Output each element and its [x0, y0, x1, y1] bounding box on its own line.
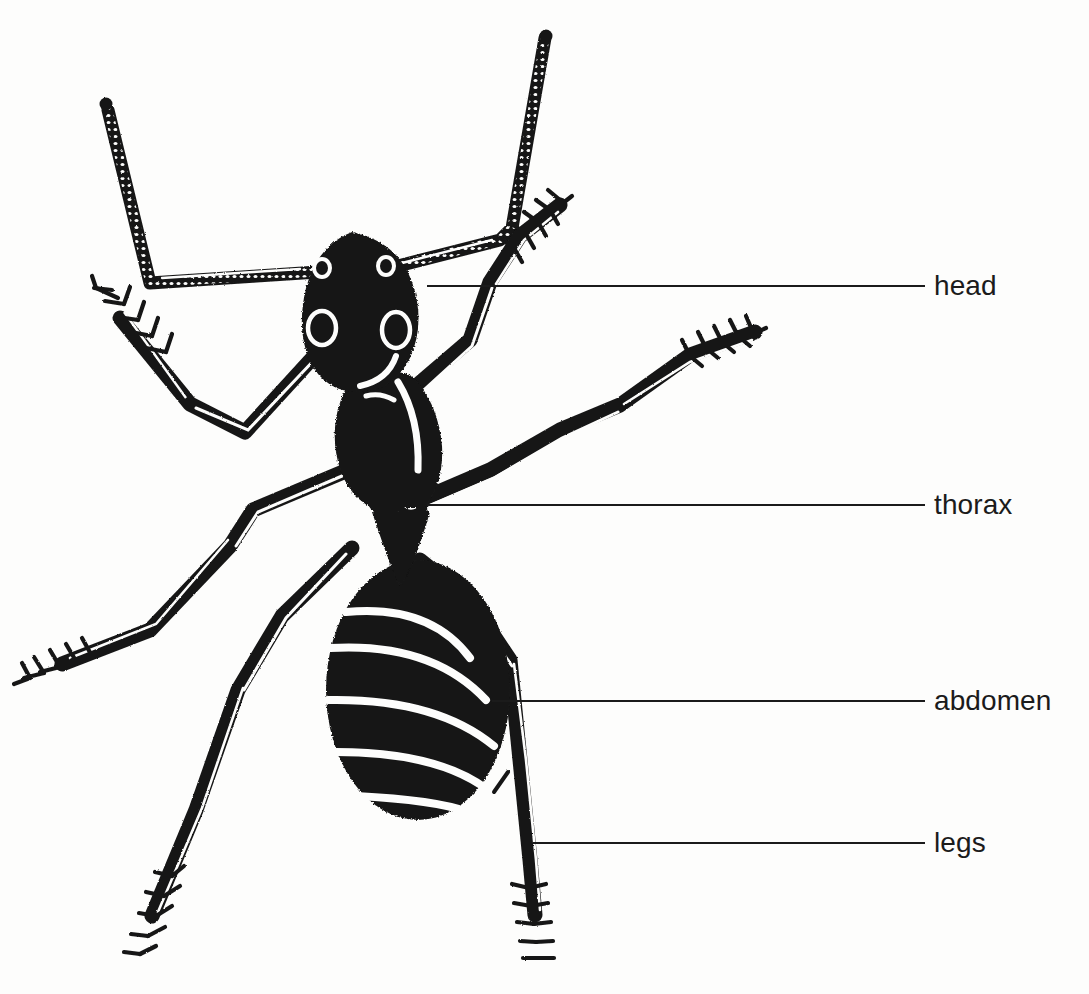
label-head: head: [934, 272, 997, 300]
label-thorax: thorax: [934, 491, 1012, 519]
label-legs: legs: [934, 829, 986, 857]
ant-anatomy-figure: head thorax abdomen legs: [0, 0, 1089, 994]
abdomen-body: [326, 560, 510, 820]
ant-illustration: [0, 0, 1089, 994]
figure-background: [0, 0, 1089, 994]
label-abdomen: abdomen: [934, 687, 1051, 715]
